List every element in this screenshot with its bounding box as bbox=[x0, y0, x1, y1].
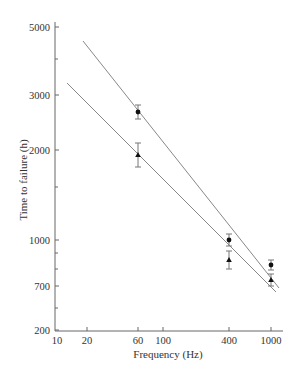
y-axis-title: Time to failure (h) bbox=[17, 139, 30, 220]
circles-point bbox=[226, 234, 232, 246]
axes bbox=[55, 22, 283, 331]
x-tick-label: 10 bbox=[52, 335, 63, 346]
circles-point bbox=[268, 260, 274, 270]
x-axis-title: Frequency (Hz) bbox=[133, 348, 203, 361]
y-tick-label: 700 bbox=[34, 281, 50, 292]
fit-lines bbox=[67, 41, 279, 292]
x-tick-label: 100 bbox=[155, 335, 171, 346]
triangles-point bbox=[135, 143, 141, 167]
circle-marker-icon bbox=[227, 238, 232, 243]
triangles-point bbox=[226, 251, 232, 269]
triangle-marker-icon bbox=[135, 152, 141, 157]
x-ticks: 1020601004001000 bbox=[52, 327, 282, 346]
x-tick-label: 20 bbox=[82, 335, 93, 346]
triangle-marker-icon bbox=[268, 277, 274, 282]
x-tick-label: 60 bbox=[133, 335, 144, 346]
y-tick-label: 5000 bbox=[29, 22, 50, 33]
circle-marker-icon bbox=[269, 263, 274, 268]
y-tick-label: 200 bbox=[34, 325, 50, 336]
y-tick-label: 1000 bbox=[29, 235, 50, 246]
x-tick-label: 400 bbox=[221, 335, 237, 346]
chart: 5000300020001000700200 1020601004001000 … bbox=[0, 0, 300, 379]
x-tick-label: 1000 bbox=[261, 335, 282, 346]
y-tick-label: 3000 bbox=[29, 90, 50, 101]
circles-fit-line bbox=[83, 41, 279, 288]
y-tick-label: 2000 bbox=[29, 145, 50, 156]
circle-marker-icon bbox=[136, 110, 141, 115]
triangle-marker-icon bbox=[226, 257, 232, 262]
triangles-fit-line bbox=[67, 83, 276, 292]
